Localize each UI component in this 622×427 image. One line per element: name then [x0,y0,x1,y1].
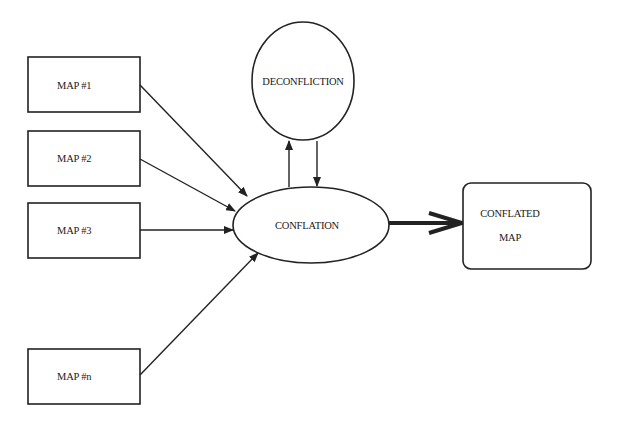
deconfliction-label: DECONFLICTION [262,76,344,87]
map-1-label: MAP #1 [57,80,91,91]
map-3-label: MAP #3 [57,225,91,236]
conflation-label: CONFLATION [275,220,340,231]
conflated-map-label-line2: MAP [499,232,522,243]
edge-map1-to-conflation [140,85,247,196]
output-conflated-map[interactable]: CONFLATED MAP [463,183,591,269]
input-map-3[interactable]: MAP #3 [28,203,140,258]
input-map-n[interactable]: MAP #n [28,349,140,404]
input-map-2[interactable]: MAP #2 [28,131,140,186]
input-map-1[interactable]: MAP #1 [28,57,140,112]
map-2-label: MAP #2 [57,153,91,164]
conflated-map-label-line1: CONFLATED [480,208,540,219]
edge-map2-to-conflation [140,159,235,211]
deconfliction-node[interactable]: DECONFLICTION [252,22,354,140]
map-n-label: MAP #n [57,371,92,382]
conflation-node[interactable]: CONFLATION [233,187,389,263]
conflation-diagram: MAP #1 MAP #2 MAP #3 MAP #n DECONFLICTIO… [0,0,622,427]
edge-mapn-to-conflation [140,253,258,375]
conflated-map-box [463,183,591,269]
edge-conflation-to-output [389,213,462,233]
